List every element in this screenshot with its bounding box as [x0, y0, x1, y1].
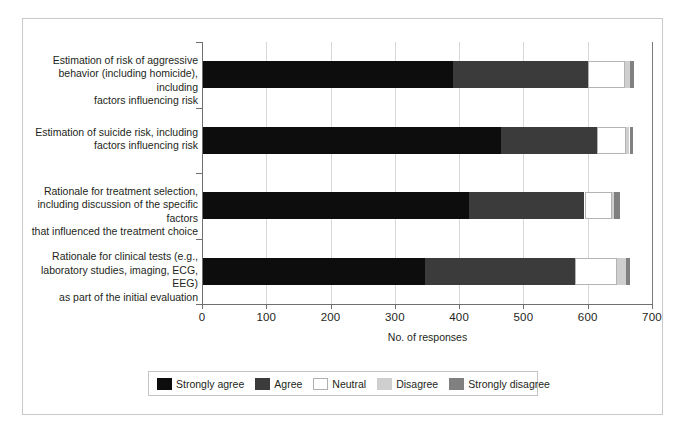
- legend-item[interactable]: Disagree: [377, 378, 438, 390]
- x-axis-tick: [523, 304, 524, 309]
- bar-segment-neutral: [588, 61, 625, 88]
- bar-segment-agree: [501, 127, 597, 154]
- legend-item[interactable]: Neutral: [313, 378, 366, 390]
- x-axis-tick-label: 300: [375, 311, 415, 323]
- bar-segment-neutral: [585, 192, 612, 219]
- category-label-line: factors influencing risk: [20, 139, 198, 153]
- chart-legend: Strongly agreeAgreeNeutralDisagreeStrong…: [148, 371, 538, 396]
- category-label-line: Estimation of risk of aggressive: [20, 54, 198, 68]
- legend-label: Disagree: [396, 378, 438, 390]
- bar-segment-strongly-disagree: [630, 127, 633, 154]
- legend-label: Strongly agree: [176, 378, 244, 390]
- legend-swatch-icon: [313, 378, 328, 390]
- category-label-line: factors influencing risk: [20, 94, 198, 108]
- bar-segment-strongly-disagree: [626, 258, 631, 285]
- x-axis-tick: [395, 304, 396, 309]
- category-label: Estimation of suicide risk, includingfac…: [20, 126, 198, 153]
- bar-segment-neutral: [575, 258, 617, 285]
- x-axis-tick: [588, 304, 589, 309]
- bar-segment-strongly-agree: [202, 258, 425, 285]
- category-label-line: that influenced the treatment choice: [20, 225, 198, 239]
- bar-group: [202, 258, 652, 285]
- bar-segment-agree: [453, 61, 588, 88]
- legend-item[interactable]: Agree: [255, 378, 302, 390]
- x-axis-tick-label: 100: [246, 311, 286, 323]
- category-label: Estimation of risk of aggressivebehavior…: [20, 54, 198, 108]
- legend-swatch-icon: [377, 378, 392, 390]
- chart-figure: 0100200300400500600700 No. of responses …: [0, 0, 686, 440]
- x-axis-tick: [266, 304, 267, 309]
- bar-group: [202, 127, 652, 154]
- bar-segment-disagree: [617, 258, 626, 285]
- x-axis-tick: [331, 304, 332, 309]
- legend-label: Strongly disagree: [468, 378, 550, 390]
- bar-segment-strongly-disagree: [614, 192, 620, 219]
- y-axis-line: [202, 42, 203, 305]
- legend-swatch-icon: [157, 378, 172, 390]
- x-axis-tick: [202, 304, 203, 309]
- category-label-line: including discussion of the specific fac…: [20, 198, 198, 225]
- x-axis-title: No. of responses: [202, 331, 653, 343]
- x-axis-tick-label: 500: [503, 311, 543, 323]
- bar-segment-strongly-disagree: [630, 61, 634, 88]
- category-label-line: as part of the initial evaluation: [20, 291, 198, 305]
- bar-segment-neutral: [597, 127, 626, 154]
- legend-swatch-icon: [449, 378, 464, 390]
- legend-item[interactable]: Strongly agree: [157, 378, 244, 390]
- bar-segment-strongly-agree: [202, 127, 501, 154]
- category-label-line: behavior (including homicide), including: [20, 67, 198, 94]
- category-label-line: laboratory studies, imaging, ECG, EEG): [20, 264, 198, 291]
- x-axis-tick-label: 700: [632, 311, 672, 323]
- legend-item[interactable]: Strongly disagree: [449, 378, 550, 390]
- category-label: Rationale for clinical tests (e.g.,labor…: [20, 250, 198, 304]
- bar-segment-strongly-agree: [202, 192, 469, 219]
- x-axis-line: [202, 304, 653, 305]
- x-axis-tick: [652, 304, 653, 309]
- x-axis-tick: [459, 304, 460, 309]
- bar-group: [202, 192, 652, 219]
- category-label-line: Rationale for clinical tests (e.g.,: [20, 250, 198, 264]
- category-label-line: Estimation of suicide risk, including: [20, 126, 198, 140]
- bar-segment-agree: [425, 258, 575, 285]
- category-label: Rationale for treatment selection,includ…: [20, 185, 198, 239]
- x-axis-tick-label: 0: [182, 311, 222, 323]
- category-label-line: Rationale for treatment selection,: [20, 185, 198, 199]
- legend-label: Neutral: [332, 378, 366, 390]
- bar-segment-strongly-agree: [202, 61, 453, 88]
- gridline: [652, 42, 653, 304]
- bar-group: [202, 61, 652, 88]
- x-axis-tick-label: 400: [439, 311, 479, 323]
- x-axis-tick-label: 200: [311, 311, 351, 323]
- legend-swatch-icon: [255, 378, 270, 390]
- x-axis-tick-label: 600: [568, 311, 608, 323]
- bar-segment-agree: [469, 192, 585, 219]
- legend-label: Agree: [274, 378, 302, 390]
- category-labels: Estimation of risk of aggressivebehavior…: [14, 42, 198, 305]
